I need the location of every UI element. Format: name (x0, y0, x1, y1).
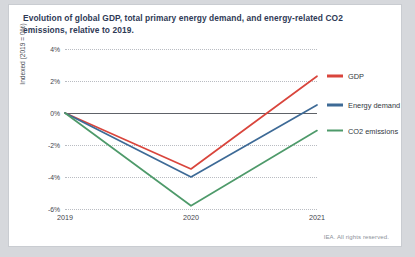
y-axis-tick-label: -6% (48, 206, 60, 213)
chart-card: Evolution of global GDP, total primary e… (8, 4, 402, 247)
x-axis-tick-label: 2019 (57, 213, 73, 222)
plot-area: 4%2%0%-2%-4%-6% 201920202021 (65, 49, 317, 209)
legend-swatch-icon (327, 129, 343, 131)
gridline (65, 209, 317, 210)
page-background: Evolution of global GDP, total primary e… (0, 0, 415, 257)
chart-area: Indexed (2019 = 0%) 4%2%0%-2%-4%-6% 2019… (23, 45, 391, 227)
y-axis-tick-label: -4% (48, 174, 60, 181)
y-axis-tick-label: -2% (48, 142, 60, 149)
legend-label: CO2 emissions (348, 126, 398, 135)
series-line-gdp (65, 76, 317, 169)
x-axis-tick-label: 2020 (183, 213, 199, 222)
x-axis-tick-label: 2021 (309, 213, 325, 222)
legend-swatch-icon (327, 104, 343, 106)
legend-item[interactable]: GDP (327, 72, 364, 81)
legend-label: Energy demand (348, 101, 400, 110)
series-lines (65, 49, 317, 209)
legend-swatch-icon (327, 75, 343, 77)
y-axis-tick-label: 4% (50, 46, 60, 53)
y-axis-title: Indexed (2019 = 0%) (19, 11, 26, 97)
y-axis-tick-label: 2% (50, 78, 60, 85)
copyright-footer: IEA. All rights reserved. (324, 234, 389, 240)
legend-item[interactable]: Energy demand (327, 101, 400, 110)
legend-label: GDP (348, 72, 364, 81)
legend-item[interactable]: CO2 emissions (327, 126, 398, 135)
y-axis-tick-label: 0% (50, 110, 60, 117)
chart-title: Evolution of global GDP, total primary e… (23, 13, 353, 36)
